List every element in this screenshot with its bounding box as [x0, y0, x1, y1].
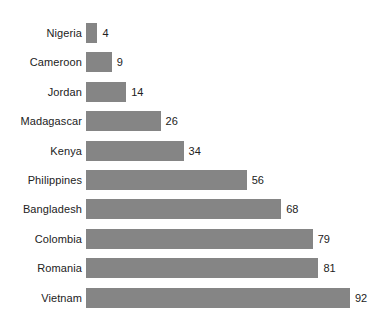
bar-row: Colombia79: [0, 229, 384, 249]
bar-row: Romania81: [0, 258, 384, 278]
chart-plot-area: Nigeria4Cameroon9Jordan14Madagascar26Ken…: [0, 0, 384, 319]
bar-value-label: 14: [131, 82, 143, 102]
category-label: Romania: [0, 258, 82, 278]
bar: [86, 82, 126, 102]
category-label: Kenya: [0, 141, 82, 161]
bar-value-label: 26: [166, 111, 178, 131]
bar-value-label: 34: [189, 141, 201, 161]
category-label: Nigeria: [0, 23, 82, 43]
bar-row: Cameroon9: [0, 52, 384, 72]
bar-value-label: 92: [355, 288, 367, 308]
bar: [86, 288, 350, 308]
bar: [86, 229, 313, 249]
bar: [86, 170, 247, 190]
category-label: Cameroon: [0, 52, 82, 72]
category-label: Vietnam: [0, 288, 82, 308]
bar-value-label: 56: [252, 170, 264, 190]
bar-row: Madagascar26: [0, 111, 384, 131]
bar-value-label: 9: [117, 52, 123, 72]
bar: [86, 258, 318, 278]
bar-row: Jordan14: [0, 82, 384, 102]
category-label: Bangladesh: [0, 199, 82, 219]
bar-row: Philippines56: [0, 170, 384, 190]
bar-value-label: 68: [286, 199, 298, 219]
bar-value-label: 4: [102, 23, 108, 43]
bar-row: Bangladesh68: [0, 199, 384, 219]
bar: [86, 199, 281, 219]
category-label: Colombia: [0, 229, 82, 249]
bar-row: Kenya34: [0, 141, 384, 161]
bar-row: Vietnam92: [0, 288, 384, 308]
bar-value-label: 79: [318, 229, 330, 249]
bar-value-label: 81: [323, 258, 335, 278]
bar: [86, 23, 97, 43]
category-label: Madagascar: [0, 111, 82, 131]
category-label: Philippines: [0, 170, 82, 190]
bar: [86, 141, 184, 161]
bar-row: Nigeria4: [0, 23, 384, 43]
bar-chart: Nigeria4Cameroon9Jordan14Madagascar26Ken…: [0, 0, 384, 319]
bar: [86, 111, 161, 131]
category-label: Jordan: [0, 82, 82, 102]
bar: [86, 52, 112, 72]
